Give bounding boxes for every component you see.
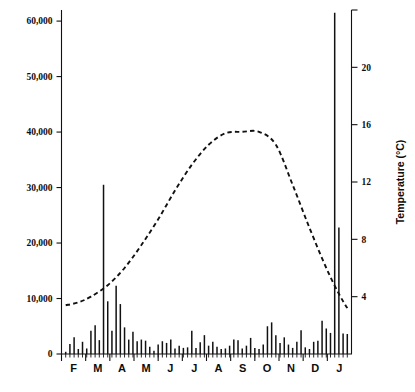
y-tick-label: 50,000 — [26, 72, 52, 82]
y-tick-label: 60,000 — [26, 16, 52, 26]
y-tick-label: 40,000 — [26, 127, 52, 137]
y2-axis-ticks — [352, 10, 358, 297]
bar-series — [66, 13, 348, 354]
x-month-label: M — [141, 362, 150, 374]
x-month-label: D — [311, 362, 319, 374]
x-month-label: M — [93, 362, 102, 374]
plot-frame — [62, 10, 353, 354]
x-month-label: N — [287, 362, 295, 374]
y2-tick-label: 4 — [362, 292, 367, 302]
x-month-label: A — [118, 362, 126, 374]
y2-tick-label: 16 — [362, 120, 372, 130]
y-axis-ticks — [57, 21, 62, 354]
x-month-label: J — [336, 362, 342, 374]
x-axis-month-ticks — [62, 354, 328, 361]
x-month-label: J — [191, 362, 197, 374]
y2-tick-label: 12 — [362, 177, 372, 187]
x-month-label: A — [215, 362, 223, 374]
seasonal-bar-temperature-chart: 010,00020,00030,00040,00050,00060,000 48… — [0, 0, 415, 392]
figure-container: 010,00020,00030,00040,00050,00060,000 48… — [0, 0, 415, 392]
x-month-label: O — [263, 362, 272, 374]
x-axis-month-labels: FMAMJJASONDJ — [70, 362, 342, 374]
x-month-label: J — [167, 362, 173, 374]
y-tick-label: 0 — [48, 349, 53, 359]
y2-axis-title: Temperature (°C) — [394, 140, 406, 225]
temperature-curve — [66, 131, 348, 308]
y2-tick-label: 8 — [362, 235, 367, 245]
y-tick-label: 20,000 — [26, 238, 52, 248]
x-month-label: F — [70, 362, 77, 374]
y-tick-label: 10,000 — [26, 294, 52, 304]
y2-tick-label: 20 — [362, 63, 372, 73]
x-month-label: S — [239, 362, 246, 374]
y-axis-tick-labels: 010,00020,00030,00040,00050,00060,000 — [26, 16, 52, 359]
y2-axis-tick-labels: 48121620 — [362, 63, 372, 302]
y-tick-label: 30,000 — [26, 183, 52, 193]
